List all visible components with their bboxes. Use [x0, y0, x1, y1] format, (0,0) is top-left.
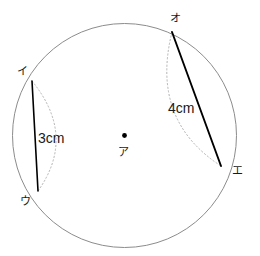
point-label-i: イ: [17, 66, 28, 77]
figure-canvas: [0, 0, 260, 256]
point-label-o: オ: [170, 13, 181, 24]
chord-length-label-4cm: 4cm: [168, 101, 194, 115]
point-label-e: エ: [232, 165, 243, 176]
center-point-dot: [122, 133, 127, 138]
chord-length-label-3cm: 3cm: [38, 131, 64, 145]
point-label-a: ア: [118, 147, 129, 158]
point-label-u: ウ: [20, 196, 31, 207]
geometry-figure: ア イ ウ オ エ 3cm 4cm: [0, 0, 260, 256]
